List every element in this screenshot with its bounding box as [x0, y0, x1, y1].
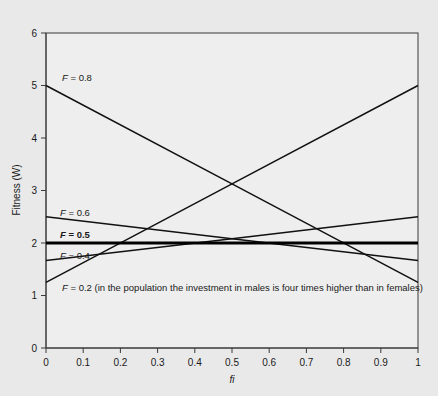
annotation-f02: F = 0.2 (in the population the investmen…	[62, 282, 423, 293]
x-axis-title: fi	[230, 374, 236, 385]
y-tick-label-0: 0	[31, 343, 37, 354]
fitness-vs-fi-line-chart: 0 1 2 3 4 5 6 Fitness (W)	[0, 0, 438, 396]
y-tick-label-3: 3	[31, 185, 37, 196]
y-tick-label-6: 6	[31, 28, 37, 39]
y-tick-label-4: 4	[31, 133, 37, 144]
x-tick-label-9: 0.9	[374, 357, 388, 368]
x-tick-label-0: 0	[43, 357, 49, 368]
label-f05-value: = 0.5	[66, 229, 91, 240]
y-tick-label-2: 2	[31, 238, 37, 249]
plot-area-background	[46, 33, 418, 348]
label-f05: F = 0.5	[60, 229, 91, 240]
label-f08-value: = 0.8	[68, 72, 92, 83]
x-tick-label-4: 0.4	[188, 357, 202, 368]
y-tick-label-1: 1	[31, 290, 37, 301]
x-tick-label-3: 0.3	[151, 357, 165, 368]
label-f04-value: = 0.4	[66, 250, 90, 261]
x-tick-label-5: 0.5	[225, 357, 239, 368]
label-f04: F = 0.4	[60, 250, 90, 261]
x-tick-label-2: 0.2	[113, 357, 127, 368]
x-tick-label-6: 0.6	[262, 357, 276, 368]
label-f06-value: = 0.6	[66, 207, 90, 218]
y-tick-label-5: 5	[31, 80, 37, 91]
x-tick-label-8: 0.8	[337, 357, 351, 368]
label-f06: F = 0.6	[60, 207, 90, 218]
annotation-f02-text: = 0.2 (in the population the investment …	[68, 282, 423, 293]
chart-figure: 0 1 2 3 4 5 6 Fitness (W)	[0, 0, 438, 396]
y-axis-title: Fitness (W)	[11, 164, 22, 215]
label-f08: F = 0.8	[62, 72, 92, 83]
x-tick-label-1: 0.1	[76, 357, 90, 368]
y-axis-title-text: Fitness (W)	[11, 164, 22, 215]
x-tick-label-10: 1	[415, 357, 421, 368]
x-tick-label-7: 0.7	[299, 357, 313, 368]
